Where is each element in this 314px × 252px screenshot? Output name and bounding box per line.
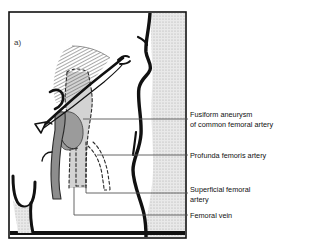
panel-letter: a): [14, 38, 21, 47]
label-line: artery: [190, 195, 209, 204]
anatomical-illustration: a) Fusiform aneurysm of common femoral a…: [0, 0, 314, 252]
label-line: Fusiform aneurysm: [190, 110, 252, 119]
stippled-band: [146, 13, 185, 237]
label-line: Femoral vein: [190, 211, 232, 220]
label-line: Superficial femoral: [190, 185, 251, 194]
label-profunda-femoris-artery: Profunda femoris artery: [190, 151, 267, 160]
figure-root: a) Fusiform aneurysm of common femoral a…: [0, 0, 314, 252]
label-superficial-femoral-artery: Superficial femoral artery: [190, 185, 251, 204]
label-femoral-vein: Femoral vein: [190, 211, 232, 220]
label-line: of common femoral artery: [190, 120, 273, 129]
label-fusiform-aneurysm: Fusiform aneurysm of common femoral arte…: [190, 110, 273, 129]
label-line: Profunda femoris artery: [190, 151, 267, 160]
